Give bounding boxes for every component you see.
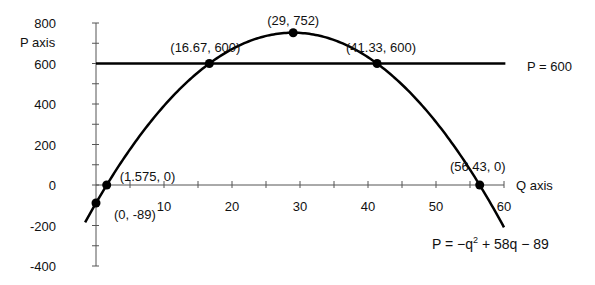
- y-tick-label: -200: [30, 219, 56, 234]
- x-tick-label: 60: [497, 199, 511, 214]
- data-point-marker: [289, 28, 298, 37]
- data-point-marker: [205, 59, 214, 68]
- equation-label: P = −q2 + 58q − 89: [432, 235, 549, 252]
- x-tick-label: 10: [157, 199, 171, 214]
- horizontal-line-label: P = 600: [527, 59, 572, 74]
- data-point-marker: [102, 181, 111, 190]
- y-tick-label: -400: [30, 259, 56, 274]
- x-tick-label: 50: [429, 199, 443, 214]
- x-tick-label: 20: [225, 199, 239, 214]
- data-point-label: (16.67, 600): [170, 40, 240, 55]
- x-tick-label: 30: [293, 199, 307, 214]
- data-point-label: (29, 752): [267, 13, 319, 28]
- data-point-label: (41.33, 600): [346, 40, 416, 55]
- data-point-marker: [92, 199, 101, 208]
- x-tick-label: 40: [361, 199, 375, 214]
- data-point-label: (1.575, 0): [120, 169, 176, 184]
- quadratic-chart: 8006004002000-200-400102030405060P axisQ…: [0, 0, 595, 285]
- data-point-marker: [475, 181, 484, 190]
- y-tick-label: 600: [34, 57, 56, 72]
- y-tick-label: 800: [34, 16, 56, 31]
- data-point-label: (56.43, 0): [450, 159, 506, 174]
- y-axis-title: P axis: [20, 35, 56, 50]
- data-point-marker: [373, 59, 382, 68]
- y-tick-label: 400: [34, 97, 56, 112]
- y-tick-label: 200: [34, 138, 56, 153]
- labels: P = −q2 + 58q − 89P = 600(0, -89)(1.575,…: [114, 13, 572, 252]
- x-axis-title: Q axis: [516, 178, 553, 193]
- data-point-label: (0, -89): [114, 207, 156, 222]
- y-tick-label: 0: [49, 178, 56, 193]
